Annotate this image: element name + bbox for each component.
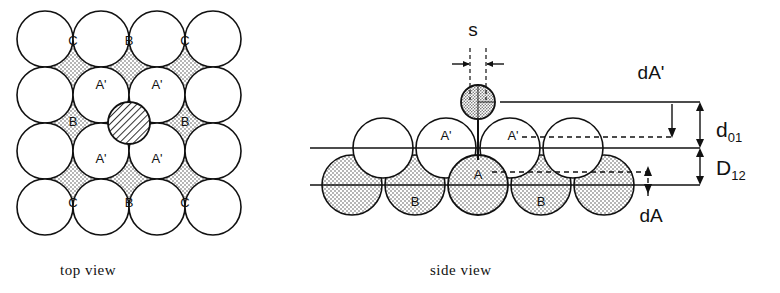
- atom-label-A-prime: A': [507, 128, 518, 143]
- D12-label: D12: [716, 156, 746, 183]
- site-label-B: B: [125, 33, 134, 48]
- site-label-B: B: [125, 195, 134, 210]
- site-label-B: B: [181, 114, 190, 129]
- d01-label-base: d: [716, 118, 728, 141]
- site-label-C: C: [180, 33, 189, 48]
- s-arrow-left-head: [463, 61, 470, 67]
- site-label-C: C: [180, 195, 189, 210]
- side-view-panel: A' A' A B B s dA' dA d01 D12: [310, 19, 746, 226]
- crystal-surface-figure: C B C A' A' B B A' A' C B C: [0, 0, 780, 293]
- atom-label-A: A: [474, 167, 483, 182]
- site-label-A-prime: A': [95, 151, 106, 166]
- dA-dimension: [644, 166, 652, 196]
- side-view-caption: side view: [430, 262, 492, 279]
- site-label-A-prime: A': [95, 77, 106, 92]
- adsorbate-label-s: s: [468, 19, 478, 40]
- D12-label-base: D: [716, 156, 731, 179]
- d01-label: d01: [716, 118, 742, 145]
- top-view-panel: C B C A' A' B B A' A' C B C: [17, 11, 241, 235]
- site-label-A-prime: A': [151, 151, 162, 166]
- top-view-caption: top view: [60, 262, 116, 279]
- dA-prime-label: dA': [638, 62, 665, 83]
- atom-label-B: B: [411, 194, 420, 209]
- site-label-A-prime: A': [151, 77, 162, 92]
- atom-label-B: B: [537, 194, 546, 209]
- top-view-adsorbate-atom: [108, 102, 150, 144]
- D12-dimension-bar: [696, 148, 704, 185]
- D12-label-sub: 12: [731, 168, 745, 183]
- site-label-C: C: [68, 195, 77, 210]
- atom-label-A-prime: A': [440, 128, 451, 143]
- d01-label-sub: 01: [728, 130, 742, 145]
- s-arrow-right-head: [486, 61, 493, 67]
- site-label-B: B: [69, 114, 78, 129]
- site-label-C: C: [68, 33, 77, 48]
- dA-prime-dimension: [668, 104, 676, 138]
- d01-dimension-bar: [696, 102, 704, 148]
- dA-label: dA: [639, 205, 663, 226]
